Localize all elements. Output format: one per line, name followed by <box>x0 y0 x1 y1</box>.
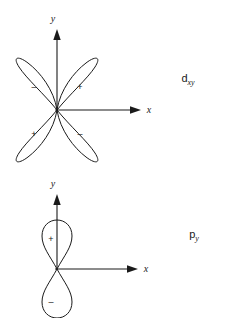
d-orbital-sign-upper-left: – <box>31 82 36 92</box>
p-orbital-y-axis-arrowhead <box>53 194 60 205</box>
p-orbital-name-subscript: y <box>194 234 199 243</box>
p-orbital-y-axis <box>53 194 60 270</box>
d-orbital-y-axis-arrowhead <box>53 29 60 40</box>
d-orbital-x-axis-label: x <box>146 104 152 115</box>
d-orbital-name-label: dxy <box>181 72 195 87</box>
d-orbital-sign-upper-right: + <box>77 82 82 92</box>
d-orbital-name-subscript: xy <box>187 78 196 87</box>
d-orbital-sign-lower-left: + <box>31 129 36 139</box>
p-orbital-sign-bottom: – <box>48 297 53 307</box>
p-orbital-x-axis <box>55 265 138 272</box>
d-orbital-y-axis-label: y <box>50 13 56 24</box>
d-orbital-diagram: – + + – y x dxy <box>16 13 195 162</box>
d-orbital-sign-lower-right: – <box>77 129 82 139</box>
d-orbital-x-axis <box>55 106 141 113</box>
p-orbital-diagram: + – y x py <box>42 178 199 318</box>
p-orbital-x-axis-arrowhead <box>127 265 138 272</box>
orbital-diagram-canvas: – + + – y x dxy <box>0 0 234 318</box>
p-orbital-x-axis-label: x <box>143 263 149 274</box>
p-orbital-y-axis-label: y <box>50 178 56 189</box>
p-orbital-lobe-bottom <box>42 269 72 318</box>
orbital-figure: – + + – y x dxy <box>0 0 234 318</box>
p-orbital-name-label: py <box>189 228 199 243</box>
d-orbital-x-axis-arrowhead <box>130 106 141 113</box>
p-orbital-sign-top: + <box>48 234 53 244</box>
d-orbital-lobe-upper-left <box>16 58 57 110</box>
